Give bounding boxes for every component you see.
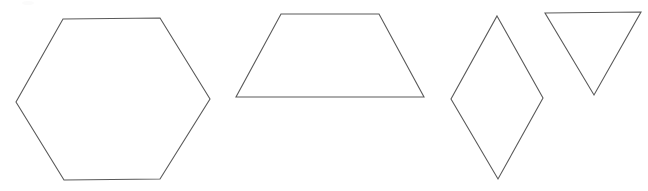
shapes-illustration <box>0 0 648 191</box>
hexagon-shape <box>16 18 210 180</box>
triangle-shape <box>545 12 641 95</box>
rhombus-shape <box>451 16 543 179</box>
shapes-canvas <box>0 0 648 191</box>
trapezoid-shape <box>236 14 424 97</box>
